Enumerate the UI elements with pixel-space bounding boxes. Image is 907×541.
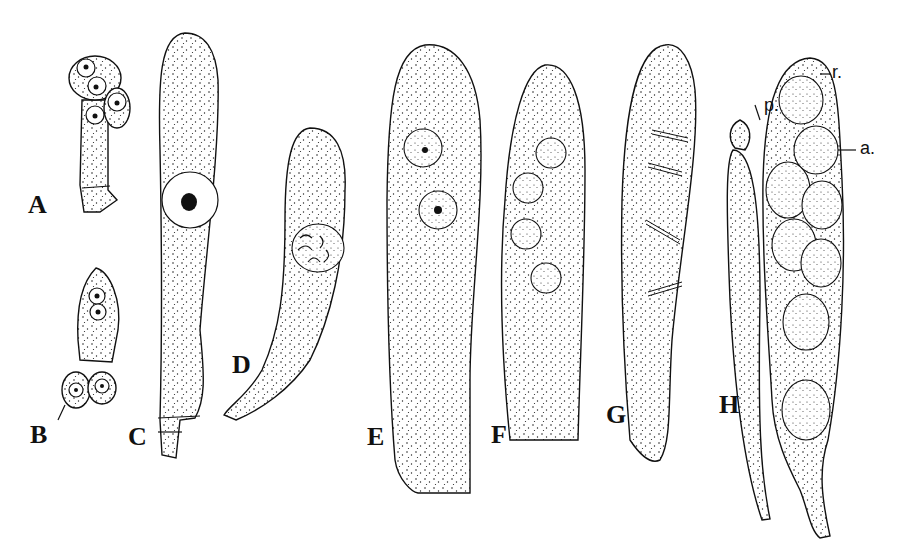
panel-h-drawing [727, 58, 856, 538]
annotation-p: p. [764, 95, 779, 116]
panel-a-drawing [69, 56, 130, 212]
ascus-development-illustration [0, 0, 907, 541]
panel-label-b: B [30, 420, 47, 450]
panel-label-d: D [232, 350, 251, 380]
annotation-r: r. [832, 62, 842, 83]
panel-label-g: G [606, 400, 626, 430]
panel-label-h: H [719, 390, 739, 420]
panel-label-f: F [491, 420, 507, 450]
panel-b-drawing [58, 268, 119, 420]
panel-label-e: E [367, 422, 384, 452]
panel-f-drawing [501, 65, 585, 440]
panel-g-drawing [622, 45, 696, 462]
panel-c-drawing [158, 33, 218, 458]
panel-e-drawing [387, 45, 481, 493]
panel-label-a: A [28, 190, 47, 220]
panel-label-c: C [128, 422, 147, 452]
annotation-a: a. [860, 138, 875, 159]
